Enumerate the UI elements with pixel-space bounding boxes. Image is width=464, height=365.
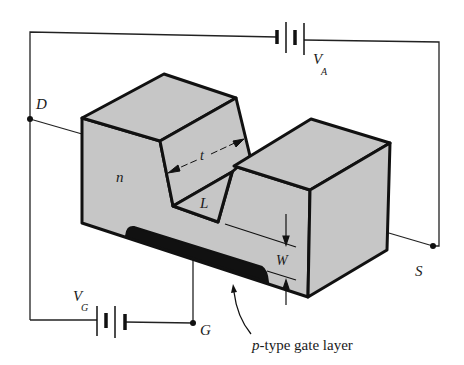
gate-terminal <box>190 320 196 326</box>
drain-label: D <box>35 96 47 112</box>
vg-subscript: G <box>81 302 88 313</box>
source-label: S <box>415 263 423 279</box>
gate-layer-caption: p-type gate layer <box>251 337 353 353</box>
diagram-canvas: D S G V A V G n t L W p-type gate layer <box>0 0 464 365</box>
battery-vg-icon <box>97 306 125 338</box>
width-label: W <box>276 253 289 268</box>
va-subscript: A <box>320 66 328 77</box>
gate-layer-caption-text: -type gate layer <box>260 337 353 353</box>
gate-wire-right <box>125 322 193 323</box>
length-label: L <box>199 195 208 211</box>
jfet-diagram: D S G V A V G n t L W p-type gate layer <box>0 0 464 365</box>
battery-va-icon <box>277 22 304 55</box>
gate-label: G <box>200 322 211 338</box>
source-terminal <box>430 243 436 249</box>
n-region-label: n <box>116 169 124 185</box>
drain-lead <box>30 119 82 134</box>
drain-terminal <box>27 116 33 122</box>
va-label: V <box>313 51 324 67</box>
gate-layer-pointer-icon <box>231 284 251 334</box>
